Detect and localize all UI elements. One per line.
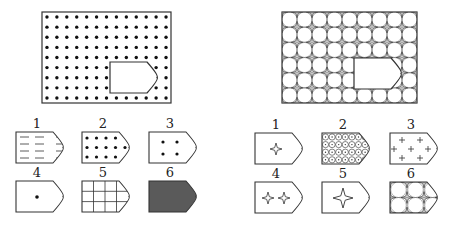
missing-piece-hole [110, 62, 157, 93]
right-option-label-3: 3 [401, 118, 421, 131]
right-option-3[interactable] [390, 133, 437, 164]
right-option-6[interactable] [384, 176, 447, 219]
left-option-label-6: 6 [160, 166, 180, 179]
right-option-label-5: 5 [333, 167, 353, 180]
left-option-label-4: 4 [27, 166, 47, 179]
right-main-figure [276, 6, 422, 108]
left-option-4[interactable] [16, 181, 63, 212]
left-option-6[interactable] [147, 179, 200, 214]
missing-piece-hole [354, 58, 401, 89]
left-main-figure [42, 12, 171, 103]
left-option-label-3: 3 [160, 117, 180, 130]
left-option-label-5: 5 [93, 166, 113, 179]
right-option-label-6: 6 [401, 167, 421, 180]
left-option-2[interactable] [82, 132, 129, 163]
right-option-4[interactable] [255, 182, 302, 213]
left-option-3[interactable] [149, 132, 196, 163]
left-option-1[interactable] [16, 132, 63, 163]
right-option-2[interactable] [322, 133, 369, 164]
puzzle-canvas [0, 0, 454, 229]
right-option-label-1: 1 [266, 118, 286, 131]
right-option-label-2: 2 [333, 118, 353, 131]
left-option-label-1: 1 [27, 117, 47, 130]
left-option-label-2: 2 [93, 117, 113, 130]
left-option-5[interactable] [82, 181, 131, 212]
right-option-5[interactable] [322, 182, 369, 213]
right-option-1[interactable] [255, 133, 302, 164]
right-option-label-4: 4 [266, 167, 286, 180]
